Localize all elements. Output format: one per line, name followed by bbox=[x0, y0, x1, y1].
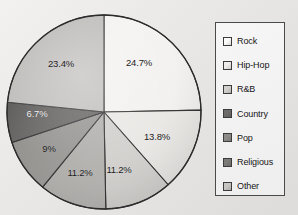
slice-label-r-b: 11.2% bbox=[106, 164, 131, 175]
slice-label-other: 23.4% bbox=[48, 58, 74, 69]
legend-swatch-icon bbox=[223, 133, 232, 142]
legend-swatch-icon bbox=[223, 85, 232, 94]
pie-chart-figure: 24.7%13.8%11.2%11.2%9%6.7%23.4% RockHip-… bbox=[0, 0, 298, 215]
legend-label: Religious bbox=[237, 157, 273, 167]
pie-slice-rock bbox=[104, 15, 201, 112]
legend-swatch-icon bbox=[223, 182, 232, 191]
legend-item-hip-hop[interactable]: Hip-Hop bbox=[223, 53, 284, 77]
legend-label: Hip-Hop bbox=[237, 60, 269, 70]
legend-swatch-icon bbox=[223, 158, 232, 167]
pie-plot-area: 24.7%13.8%11.2%11.2%9%6.7%23.4% bbox=[0, 0, 210, 215]
legend-label: Rock bbox=[237, 36, 257, 46]
legend-label: Pop bbox=[237, 133, 253, 143]
slice-label-hip-hop: 13.8% bbox=[144, 131, 170, 142]
legend-item-r-b[interactable]: R&B bbox=[223, 77, 284, 101]
chart-legend: RockHip-HopR&BCountryPopReligiousOther bbox=[215, 22, 285, 196]
slice-label-religious: 6.7% bbox=[27, 108, 48, 119]
legend-label: R&B bbox=[237, 84, 255, 94]
legend-label: Country bbox=[237, 109, 268, 119]
legend-swatch-icon bbox=[223, 109, 232, 118]
slice-label-country: 11.2% bbox=[67, 167, 92, 178]
legend-item-other[interactable]: Other bbox=[223, 174, 284, 198]
legend-item-rock[interactable]: Rock bbox=[223, 29, 284, 53]
slice-label-pop: 9% bbox=[42, 143, 55, 154]
legend-label: Other bbox=[237, 181, 259, 191]
legend-swatch-icon bbox=[223, 37, 232, 46]
legend-item-country[interactable]: Country bbox=[223, 102, 284, 126]
legend-swatch-icon bbox=[223, 61, 232, 70]
legend-item-pop[interactable]: Pop bbox=[223, 126, 284, 150]
legend-item-religious[interactable]: Religious bbox=[223, 150, 284, 174]
slice-label-rock: 24.7% bbox=[126, 57, 152, 68]
